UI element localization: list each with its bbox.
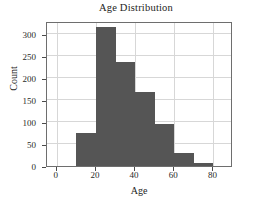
y-tick-mark	[42, 79, 46, 80]
y-tick-label: 300	[0, 30, 36, 40]
x-tick-mark	[56, 167, 57, 171]
y-tick-label: 0	[0, 162, 36, 172]
y-tick-mark	[42, 57, 46, 58]
y-tick-label: 100	[0, 118, 36, 128]
gridline-horizontal	[47, 33, 231, 34]
gridline-vertical	[57, 23, 58, 166]
x-tick-label: 20	[80, 170, 110, 180]
x-tick-label: 80	[197, 170, 227, 180]
histogram-bar	[174, 153, 194, 166]
y-tick-label: 50	[0, 140, 36, 150]
x-tick-mark	[134, 167, 135, 171]
histogram-bar	[155, 124, 175, 166]
histogram-figure: Age Distribution Age Count 0501001502002…	[0, 0, 272, 208]
plot-area	[46, 22, 232, 167]
histogram-bar	[194, 163, 214, 166]
x-axis-label: Age	[46, 185, 232, 196]
histogram-bar	[96, 27, 116, 166]
y-tick-label: 250	[0, 52, 36, 62]
x-tick-mark	[212, 167, 213, 171]
histogram-bar	[116, 62, 136, 166]
histogram-bar	[76, 133, 96, 166]
y-tick-mark	[42, 167, 46, 168]
x-tick-label: 0	[41, 170, 71, 180]
x-tick-label: 40	[119, 170, 149, 180]
y-tick-mark	[42, 35, 46, 36]
y-tick-label: 200	[0, 74, 36, 84]
y-tick-mark	[42, 101, 46, 102]
histogram-bar	[135, 92, 155, 166]
x-tick-label: 60	[158, 170, 188, 180]
x-tick-mark	[95, 167, 96, 171]
chart-title: Age Distribution	[0, 2, 272, 13]
gridline-horizontal	[47, 55, 231, 56]
y-tick-mark	[42, 145, 46, 146]
gridline-vertical	[174, 23, 175, 166]
y-tick-label: 150	[0, 96, 36, 106]
y-tick-mark	[42, 123, 46, 124]
gridline-horizontal	[47, 77, 231, 78]
gridline-vertical	[213, 23, 214, 166]
x-tick-mark	[173, 167, 174, 171]
